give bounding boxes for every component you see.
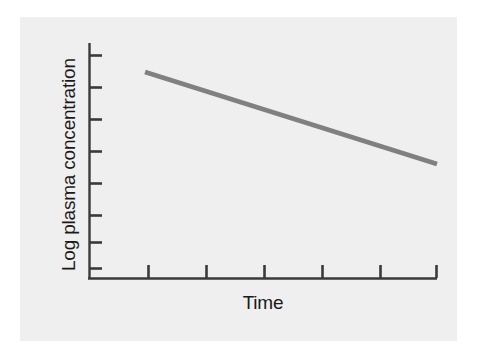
- x-axis-ticks: [149, 265, 437, 278]
- y-axis-label: Log plasma concentration: [56, 31, 82, 271]
- x-axis-label: Time: [89, 292, 437, 314]
- y-axis-ticks: [89, 56, 102, 269]
- figure-container: Log plasma concentration Time: [0, 0, 481, 357]
- data-line-log-plasma-concentration: [145, 72, 437, 164]
